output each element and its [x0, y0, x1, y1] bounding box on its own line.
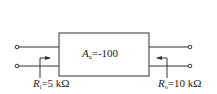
input-arrowhead-icon [45, 56, 51, 60]
input-resistance-arrow [40, 58, 50, 78]
output-terminal-bottom [188, 64, 192, 68]
input-terminal-bottom [15, 64, 19, 68]
gain-label: Au=-100 [82, 48, 118, 60]
input-resistance-label: Ri=5 kΩ [33, 78, 70, 90]
output-arrowhead-icon [156, 56, 162, 60]
gain-value: -100 [98, 47, 118, 59]
input-terminal-top [15, 45, 19, 49]
gain-symbol: A [82, 47, 89, 59]
ro-symbol: R [158, 77, 165, 89]
ro-value: =10 kΩ [168, 77, 202, 89]
output-resistance-arrow [157, 58, 167, 78]
ri-value: =5 kΩ [41, 77, 69, 89]
ri-symbol: R [33, 77, 40, 89]
output-resistance-label: Ro=10 kΩ [158, 78, 201, 90]
output-terminal-top [188, 45, 192, 49]
